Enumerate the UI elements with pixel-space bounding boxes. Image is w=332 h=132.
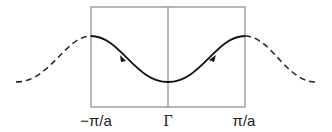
label-minus-pi-over-a: −π/a xyxy=(80,112,112,129)
label-pi-over-a: π/a xyxy=(233,112,256,129)
label-gamma: Γ xyxy=(163,112,172,130)
dashed-curve-right xyxy=(245,36,316,82)
dashed-curve-left xyxy=(16,36,91,82)
